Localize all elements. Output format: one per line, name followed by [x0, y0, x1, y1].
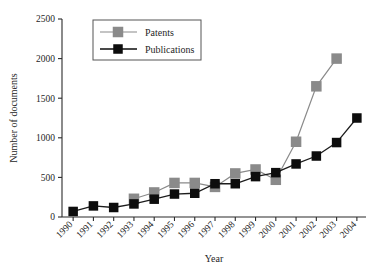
x-tick-label: 1997: [196, 219, 217, 240]
x-tick-label: 2002: [297, 219, 318, 240]
x-axis-title: Year: [205, 253, 224, 264]
y-tick-label: 2000: [36, 54, 55, 64]
y-tick-label: 0: [50, 212, 55, 222]
y-tick-label: 2500: [36, 14, 55, 24]
x-tick-label: 1991: [74, 219, 95, 240]
data-point-publications-1998: [231, 179, 241, 189]
legend-label-publications: Publications: [145, 44, 195, 55]
data-point-patents-1996: [190, 178, 201, 189]
x-tick-label: 1992: [95, 219, 116, 240]
y-axis: 05001000150020002500: [36, 14, 62, 222]
series-line-publications: [73, 118, 357, 211]
data-point-publications-1993: [129, 199, 139, 209]
x-tick-label: 2001: [277, 219, 298, 240]
data-point-publications-2003: [332, 138, 342, 148]
data-point-publications-1996: [190, 188, 200, 198]
x-tick-label: 2004: [338, 219, 359, 240]
data-point-publications-1997: [210, 179, 220, 189]
chart-legend: PatentsPublications: [93, 20, 201, 60]
data-point-publications-1999: [251, 172, 260, 182]
y-tick-label: 1000: [36, 133, 55, 143]
data-point-publications-2002: [312, 151, 322, 161]
data-point-publications-2004: [352, 113, 362, 123]
legend-marker-patents: [113, 27, 124, 38]
x-tick-label: 2003: [318, 219, 339, 240]
legend-marker-publications: [113, 44, 123, 54]
data-point-publications-1992: [109, 203, 119, 213]
x-tick-label: 1996: [176, 219, 197, 240]
chart-figure: 05001000150020002500 1990199119921993199…: [0, 0, 376, 270]
legend-label-patents: Patents: [145, 27, 174, 38]
x-tick-label: 1993: [115, 219, 136, 240]
x-tick-label: 1999: [236, 219, 257, 240]
data-point-publications-1995: [170, 189, 180, 199]
data-point-publications-1991: [89, 201, 99, 211]
data-point-publications-1994: [149, 194, 159, 204]
data-point-patents-1998: [230, 168, 241, 179]
x-tick-label: 1994: [135, 219, 156, 240]
y-tick-label: 500: [41, 173, 56, 183]
x-tick-label: 1990: [54, 219, 75, 240]
y-tick-label: 1500: [36, 94, 55, 104]
line-chart-canvas: 05001000150020002500 1990199119921993199…: [0, 0, 376, 270]
data-point-publications-1990: [68, 207, 78, 217]
x-tick-label: 1995: [155, 219, 176, 240]
x-axis: 1990199119921993199419951996199719981999…: [54, 217, 366, 240]
data-point-patents-2002: [311, 81, 322, 92]
x-tick-label: 1998: [216, 219, 237, 240]
series-layer: [68, 53, 361, 216]
y-axis-title: Number of documents: [8, 73, 19, 163]
data-point-publications-2000: [271, 168, 281, 178]
data-point-patents-2001: [291, 137, 302, 148]
data-point-publications-2001: [291, 159, 301, 169]
data-point-patents-1995: [169, 178, 180, 189]
data-point-patents-2003: [331, 53, 342, 64]
x-tick-label: 2000: [257, 219, 278, 240]
